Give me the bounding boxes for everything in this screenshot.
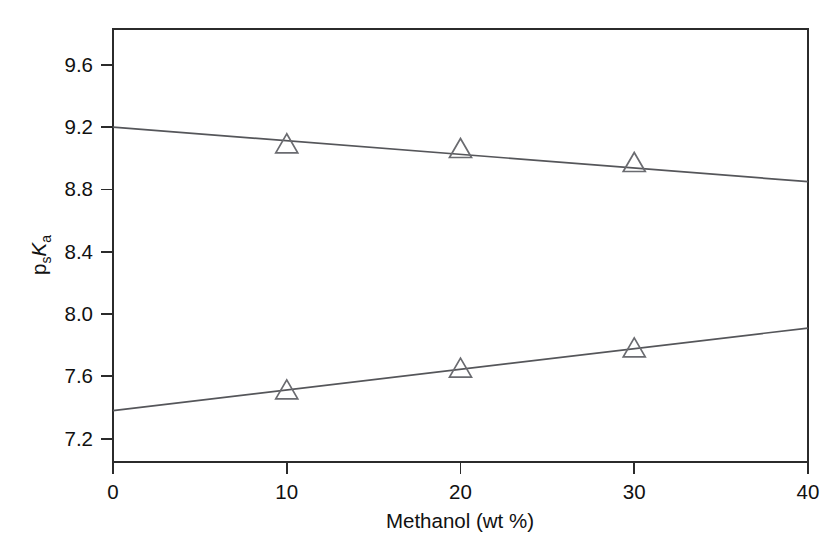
y-tick-label: 8.8 (65, 177, 94, 200)
plot-canvas: 7.27.68.08.48.89.29.6 010203040 Methanol… (0, 0, 840, 552)
y-tick-label: 7.2 (65, 427, 94, 450)
x-axis-title-text: Methanol (wt %) (386, 509, 534, 532)
x-tick-label: 20 (449, 480, 472, 503)
y-tick-label: 9.6 (65, 53, 94, 76)
y-tick-label: 8.4 (65, 240, 94, 263)
chart-figure: 7.27.68.08.48.89.29.6 010203040 Methanol… (0, 0, 840, 552)
x-tick-label: 10 (275, 480, 298, 503)
x-axis-title: Methanol (wt %) (386, 509, 534, 532)
y-tick-label: 7.6 (65, 364, 94, 387)
x-tick-label: 40 (797, 480, 820, 503)
x-tick-label: 30 (623, 480, 646, 503)
x-tick-label: 0 (107, 480, 118, 503)
y-tick-label: 8.0 (65, 302, 94, 325)
figure-background (0, 0, 840, 552)
y-tick-label: 9.2 (65, 115, 94, 138)
